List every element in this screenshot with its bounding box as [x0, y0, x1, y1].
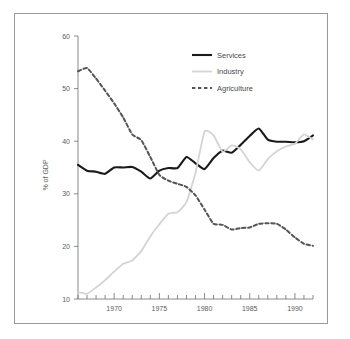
legend-label-agriculture: Agriculture [217, 84, 253, 93]
y-tick-label: 50 [62, 85, 70, 92]
y-tick-label: 20 [62, 243, 70, 250]
y-tick-label: 60 [62, 33, 70, 40]
line-chart: 102030405060 19701975198019851990 % of G… [0, 0, 350, 339]
series-line-industry [78, 131, 313, 294]
y-tick-label: 40 [62, 138, 70, 145]
data-series-group [78, 68, 313, 294]
series-line-agriculture [78, 68, 313, 246]
legend-label-industry: Industry [217, 67, 244, 76]
y-tick-label: 10 [62, 296, 70, 303]
x-axis-ticks: 19701975198019851990 [78, 293, 313, 312]
legend-label-services: Services [217, 51, 246, 60]
y-axis-title: % of GDP [42, 159, 49, 190]
chart-legend: ServicesIndustryAgriculture [192, 51, 253, 93]
chart-figure: 102030405060 19701975198019851990 % of G… [0, 0, 350, 339]
x-tick-label: 1970 [106, 305, 122, 312]
x-tick-label: 1985 [242, 305, 258, 312]
x-tick-label: 1990 [287, 305, 303, 312]
y-tick-label: 30 [62, 190, 70, 197]
y-axis-ticks: 102030405060 [62, 33, 78, 303]
x-tick-label: 1975 [152, 305, 168, 312]
x-tick-label: 1980 [197, 305, 213, 312]
